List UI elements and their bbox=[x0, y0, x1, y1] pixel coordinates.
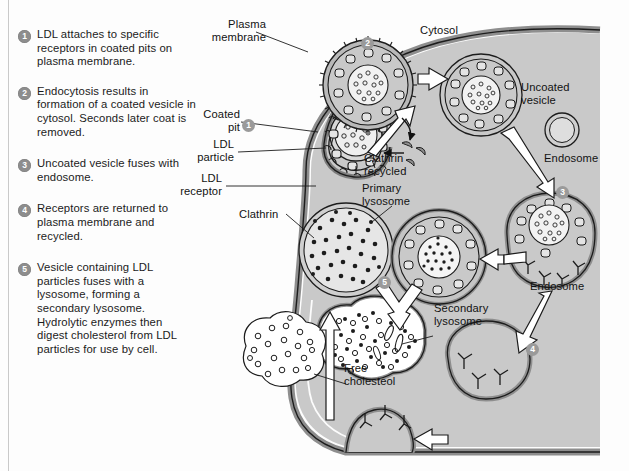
label-clathrin-recycled: Clathrin recycled bbox=[364, 152, 406, 178]
label-coated-pit: Coated pit bbox=[168, 108, 240, 134]
diagram-step-marker-2: 2 bbox=[361, 37, 374, 50]
label-ldl-particle: LDL particle bbox=[154, 138, 234, 164]
label-endosome-small: Endosome bbox=[544, 152, 598, 165]
legend-text-4: Receptors are returned to plasma membran… bbox=[37, 202, 196, 243]
step-badge-2: 2 bbox=[18, 87, 31, 100]
page-margin-rule bbox=[8, 0, 9, 471]
figure-page: 1 LDL attaches to specific receptors in … bbox=[0, 0, 629, 471]
step-badge-3: 3 bbox=[18, 159, 31, 172]
legend-text-1: LDL attaches to specific receptors in co… bbox=[37, 28, 196, 69]
legend-text-5: Vesicle containing LDL particles fuses w… bbox=[37, 261, 196, 356]
large-endosome bbox=[507, 193, 595, 287]
step-badge-1: 1 bbox=[18, 30, 31, 43]
step-badge-5: 5 bbox=[18, 263, 31, 276]
label-primary-lysosome: Primary lysosome bbox=[362, 182, 410, 208]
label-clathrin: Clathrin bbox=[239, 208, 278, 221]
diagram-step-marker-1: 1 bbox=[242, 119, 255, 132]
label-endosome-large: Endosome bbox=[530, 280, 584, 293]
legend-item-1: 1 LDL attaches to specific receptors in … bbox=[18, 28, 196, 69]
label-free-cholesterol: Free cholesteol bbox=[344, 362, 395, 388]
label-cytosol: Cytosol bbox=[420, 24, 458, 37]
diagram-step-marker-5: 5 bbox=[378, 276, 391, 289]
small-endosome bbox=[545, 113, 579, 147]
step-badge-4: 4 bbox=[18, 204, 31, 217]
ldl-vesicle-pre-fusion bbox=[392, 210, 486, 304]
step-legend: 1 LDL attaches to specific receptors in … bbox=[18, 28, 196, 372]
diagram-step-marker-4: 4 bbox=[526, 343, 539, 356]
uncoated-vesicle-body bbox=[440, 54, 522, 136]
label-secondary-lysosome: Secondary lysosome bbox=[434, 302, 488, 328]
label-ldl-receptor: LDL receptor bbox=[152, 172, 222, 198]
legend-item-4: 4 Receptors are returned to plasma membr… bbox=[18, 202, 196, 243]
cell-diagram: Plasma membrane Cytosol Coated pit LDL p… bbox=[196, 0, 629, 471]
label-plasma-membrane: Plasma membrane bbox=[186, 18, 266, 44]
label-uncoated-vesicle: Uncoated vesicle bbox=[521, 81, 570, 107]
diagram-step-marker-3: 3 bbox=[556, 186, 569, 199]
legend-item-5: 5 Vesicle containing LDL particles fuses… bbox=[18, 261, 196, 356]
